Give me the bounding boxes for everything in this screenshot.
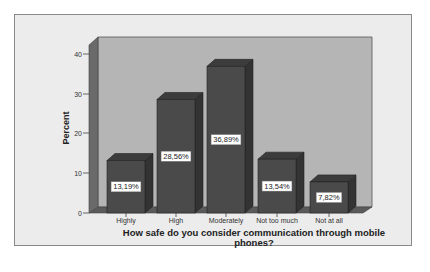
value-label: 13,54% (264, 182, 290, 191)
y-axis: 0 10 20 30 40 (74, 51, 89, 217)
value-label: 7,82% (318, 193, 340, 202)
y-axis-label: Percent (61, 111, 71, 144)
category-label: High (169, 217, 184, 225)
bar-not-at-all: 7,82%Not at all (310, 175, 356, 224)
bar-highly: 13,19%Highly (107, 154, 153, 225)
svg-text:40: 40 (74, 51, 82, 58)
svg-text:30: 30 (74, 91, 82, 98)
svg-text:20: 20 (74, 130, 82, 137)
bar-high: 28,56%High (157, 92, 203, 225)
svg-text:10: 10 (74, 170, 82, 177)
category-label: Highly (116, 217, 136, 225)
x-axis-label-line2: phones? (234, 237, 274, 248)
plot-left-wall (89, 37, 98, 213)
bar-chart: 0 10 20 30 40 Percent 13,19%Highly28,56%… (0, 0, 430, 272)
svg-text:0: 0 (78, 210, 82, 217)
bar-moderately: 36,89%Moderately (207, 59, 253, 225)
value-label: 13,19% (113, 182, 139, 191)
category-label: Not too much (256, 217, 298, 224)
category-label: Moderately (209, 217, 244, 225)
value-label: 36,89% (213, 135, 239, 144)
category-label: Not at all (315, 217, 343, 224)
value-label: 28,56% (163, 152, 189, 161)
